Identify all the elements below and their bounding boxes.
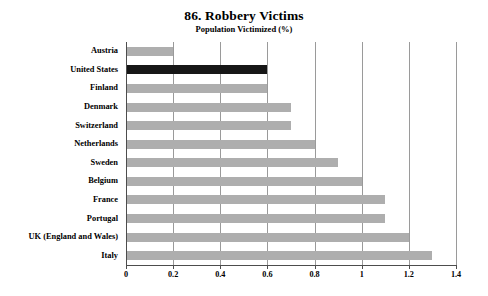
chart-subtitle: Population Victimized (%) <box>0 24 488 35</box>
bars-layer <box>126 42 456 265</box>
bar-row <box>126 154 456 173</box>
x-tick-label-1.4: 1.4 <box>451 270 461 280</box>
bar-denmark <box>126 103 291 112</box>
bar-switzerland <box>126 121 291 130</box>
x-tick-label-1: 1 <box>360 270 364 280</box>
bar-italy <box>126 251 432 260</box>
bar-row <box>126 191 456 210</box>
x-tick-mark-0.4 <box>220 266 221 269</box>
x-tick-mark-1 <box>362 266 363 269</box>
x-axis-tick-labels: 00.20.40.60.811.21.4 <box>0 266 488 282</box>
x-tick-mark-1.2 <box>409 266 410 269</box>
chart-title-block: 86. Robbery Victims Population Victimize… <box>0 8 488 35</box>
y-axis-label-france: France <box>0 195 122 205</box>
y-axis-label-belgium: Belgium <box>0 176 122 186</box>
bar-united-states <box>126 65 267 74</box>
x-tick-label-0: 0 <box>124 270 128 280</box>
y-axis-label-united-states: United States <box>0 65 122 75</box>
x-tick-label-0.4: 0.4 <box>215 270 225 280</box>
x-tick-mark-0.2 <box>173 266 174 269</box>
y-axis-label-finland: Finland <box>0 83 122 93</box>
bar-row <box>126 116 456 135</box>
bar-row <box>126 98 456 117</box>
plot-area <box>126 42 456 265</box>
x-tick-mark-1.4 <box>456 266 457 269</box>
bar-sweden <box>126 158 338 167</box>
y-axis-label-portugal: Portugal <box>0 214 122 224</box>
bar-finland <box>126 84 267 93</box>
bar-portugal <box>126 214 385 223</box>
bar-belgium <box>126 177 362 186</box>
page-title: 86. Robbery Victims <box>0 8 488 23</box>
bar-france <box>126 195 385 204</box>
x-tick-label-1.2: 1.2 <box>404 270 414 280</box>
y-axis-label-uk-england-and-wales: UK (England and Wales) <box>0 232 122 242</box>
bar-row <box>126 246 456 265</box>
y-axis-label-austria: Austria <box>0 46 122 56</box>
x-tick-mark-0.6 <box>267 266 268 269</box>
bar-row <box>126 228 456 247</box>
bar-row <box>126 61 456 80</box>
bar-uk-england-and-wales <box>126 233 409 242</box>
y-axis-line <box>126 42 127 266</box>
bar-row <box>126 209 456 228</box>
bar-row <box>126 172 456 191</box>
y-axis-label-denmark: Denmark <box>0 102 122 112</box>
bar-row <box>126 135 456 154</box>
x-tick-label-0.6: 0.6 <box>262 270 272 280</box>
y-axis-category-labels: AustriaUnited StatesFinlandDenmarkSwitze… <box>0 42 122 265</box>
x-tick-label-0.2: 0.2 <box>168 270 178 280</box>
bar-row <box>126 42 456 61</box>
x-tick-label-0.8: 0.8 <box>309 270 319 280</box>
y-axis-label-netherlands: Netherlands <box>0 139 122 149</box>
x-tick-mark-0 <box>126 266 127 269</box>
x-tick-mark-0.8 <box>315 266 316 269</box>
y-axis-label-italy: Italy <box>0 251 122 261</box>
y-axis-label-sweden: Sweden <box>0 158 122 168</box>
robbery-victims-bar-chart: 86. Robbery Victims Population Victimize… <box>0 0 488 296</box>
gridline-1.4 <box>456 42 457 265</box>
bar-austria <box>126 47 173 56</box>
bar-netherlands <box>126 140 315 149</box>
y-axis-label-switzerland: Switzerland <box>0 121 122 131</box>
bar-row <box>126 79 456 98</box>
